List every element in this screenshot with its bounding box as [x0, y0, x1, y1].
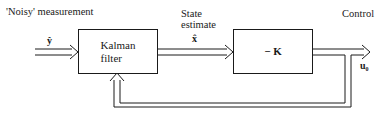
kalman-filter-block: Kalman filter — [78, 29, 158, 74]
gain-block: − K — [233, 29, 313, 74]
kalman-filter-label-line1: Kalman — [101, 39, 136, 52]
gain-label: − K — [264, 45, 282, 58]
state-estimate-label-line2: estimate — [181, 19, 216, 31]
noisy-measurement-label: 'Noisy' measurement — [6, 6, 93, 18]
control-output-symbol: u₀ — [360, 61, 369, 71]
state-estimate-symbol: x̂ — [192, 34, 197, 44]
control-label: Control — [342, 8, 374, 20]
kalman-filter-label-line2: filter — [101, 52, 136, 65]
measurement-symbol: ŷ — [47, 36, 52, 46]
